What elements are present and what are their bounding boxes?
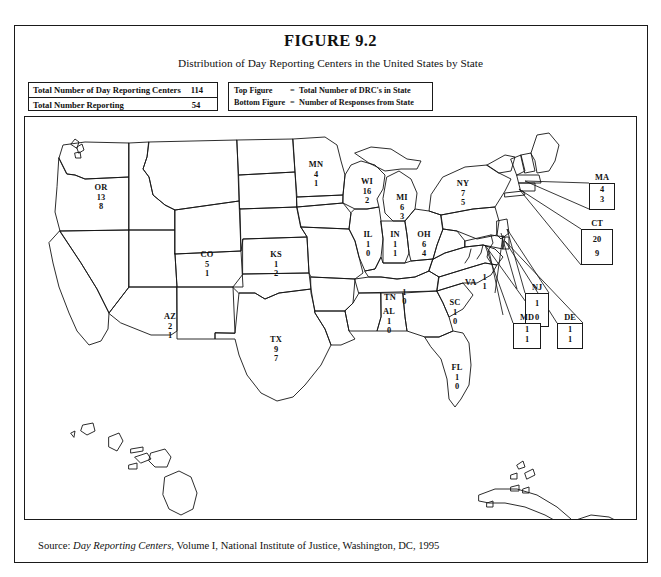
callout-label-NJ: NJ [526,283,548,293]
key-term: Bottom Figure [234,97,290,109]
state-label-SC: SC 1 0 [443,298,467,327]
callout-label-MA: MA [590,173,614,183]
key-row: Top Figure = Total Number of DRC's in St… [234,85,427,97]
totals-row: Total Number Reporting 54 [29,98,217,113]
callout-label-MD: MD [514,313,540,323]
callout-box-CT: CT 20 9 [581,229,613,265]
state-label-KS: KS 1 2 [263,250,289,279]
state-label-NY: NY 7 5 [451,179,475,208]
key-equals: = [290,97,299,109]
source-line: Source: Day Reporting Centers, Volume I,… [38,540,439,551]
callout-box-DE: DE 1 1 [557,323,583,349]
totals-value: 54 [179,100,213,110]
state-label-MN: MN 4 1 [303,160,329,189]
state-label-IL: IL 1 0 [357,230,379,259]
us-map-panel: OR 13 8 AZ 2 1 CO 5 1 KS 1 2 TX 9 7 MN 4… [24,116,637,520]
state-label-OR: OR 13 8 [88,183,114,212]
state-label-WI: WI 16 2 [354,177,380,206]
state-label-AZ: AZ 2 1 [157,312,183,341]
state-label-FL: FL 1 0 [446,363,468,392]
totals-label: Total Number Reporting [33,100,179,110]
key-equals: = [290,85,299,97]
key-row: Bottom Figure = Number of Responses from… [234,97,427,109]
key-term: Top Figure [234,85,290,97]
source-prefix: Source: [38,540,73,551]
totals-value: 114 [181,85,213,95]
state-label-VA: VA 1 1 [465,273,487,292]
source-title: Day Reporting Centers [73,540,171,551]
totals-label: Total Number of Day Reporting Centers [33,85,181,95]
state-label-MI: MI 6 3 [389,193,415,222]
state-label-TX: TX 9 7 [263,335,289,364]
callout-label-CT: CT [582,219,612,229]
key-legend-box: Top Figure = Total Number of DRC's in St… [228,82,433,111]
source-rest: , Volume I, National Institute of Justic… [171,540,439,551]
callout-label-DE: DE [558,313,582,323]
key-definition: Number of Responses from State [299,97,427,109]
state-label-CO: CO 5 1 [194,250,220,279]
state-label-IN: IN 1 1 [384,230,406,259]
figure-subtitle: Distribution of Day Reporting Centers in… [0,57,661,69]
figure-page: FIGURE 9.2 Distribution of Day Reporting… [0,0,661,577]
totals-legend-box: Total Number of Day Reporting Centers 11… [28,82,218,111]
state-label-AL: AL 1 0 [377,307,401,336]
state-label-TN: TN 1 0 [384,288,406,307]
state-label-OH: OH 6 4 [412,230,436,259]
page-title: FIGURE 9.2 [0,31,661,51]
key-definition: Total Number of DRC's in State [299,85,427,97]
totals-row: Total Number of Day Reporting Centers 11… [29,83,217,98]
callout-box-MA: MA 4 3 [589,183,615,210]
callout-box-MD: MD 1 1 [513,323,541,349]
